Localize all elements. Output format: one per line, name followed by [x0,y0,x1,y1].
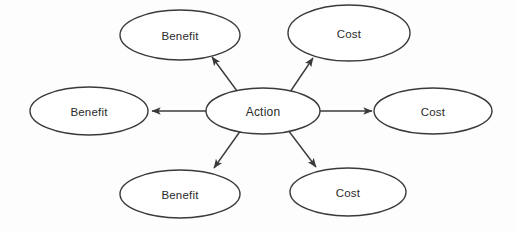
arrow-to-cost-bottom-right [288,130,316,167]
concept-map-svg: Benefit Cost Benefit Cost Benefit Cost A… [0,0,516,232]
node-label: Cost [337,28,362,40]
node-benefit-left[interactable]: Benefit [30,87,148,135]
diagram-canvas: Benefit Cost Benefit Cost Benefit Cost A… [0,0,516,232]
node-benefit-top-left[interactable]: Benefit [120,10,240,60]
node-benefit-bottom-left[interactable]: Benefit [120,170,240,218]
node-label: Benefit [161,30,199,42]
arrow-to-cost-top-right [288,58,313,95]
node-cost-top-right[interactable]: Cost [288,5,410,61]
node-action-center[interactable]: Action [206,88,320,134]
node-label: Benefit [161,189,199,201]
node-label: Benefit [70,106,108,118]
center-node-label: Action [246,105,281,119]
node-cost-bottom-right[interactable]: Cost [290,168,406,216]
node-label: Cost [336,187,361,199]
arrow-to-benefit-top-left [212,57,240,95]
node-cost-right[interactable]: Cost [374,88,492,134]
node-label: Cost [421,106,446,118]
arrow-to-benefit-bottom-left [214,130,241,168]
